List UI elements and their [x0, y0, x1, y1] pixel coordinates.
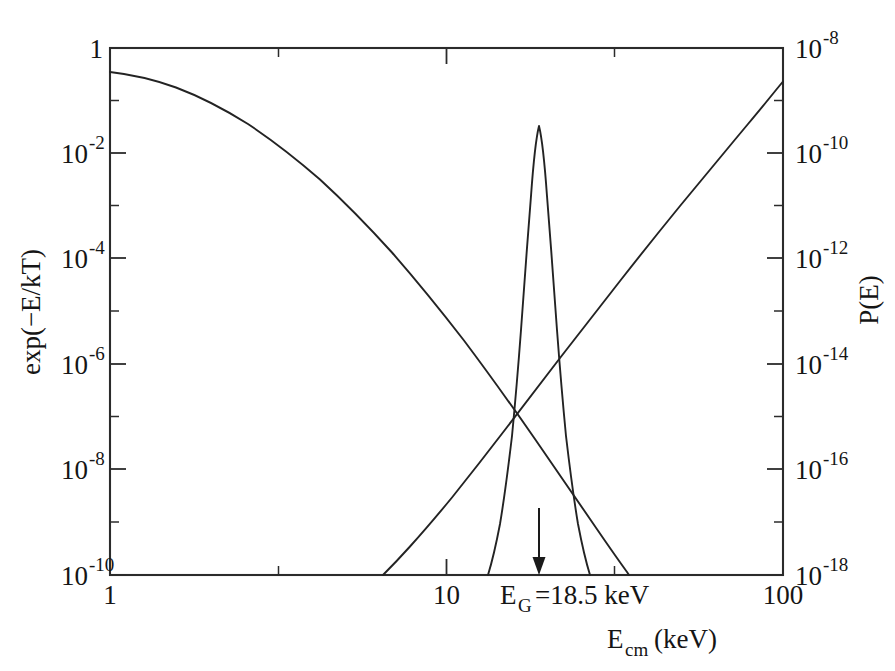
- right-tick-label-2: 10: [795, 244, 822, 274]
- left-axis-tick-labels: 1 10 -2 10 -4 10 -6 10 -8 10 -10: [61, 34, 114, 591]
- gamow-energy-arrow: [533, 508, 546, 575]
- x-axis-tick-labels: 1 10 100: [103, 580, 803, 610]
- plot-frame: [110, 48, 783, 575]
- chart-canvas: 1 10 -2 10 -4 10 -6 10 -8 10 -10 10 -8 1…: [0, 0, 895, 671]
- right-tick-label-0: 10: [795, 34, 822, 64]
- right-tick-exp-4: -16: [823, 448, 848, 469]
- right-tick-exp-5: -18: [823, 554, 848, 575]
- x-axis-title-base: E: [607, 624, 624, 654]
- x-tick-label-2: 100: [763, 580, 804, 610]
- left-tick-label-5: 10: [61, 561, 88, 591]
- left-tick-exp-4: -8: [89, 448, 105, 469]
- curve-tunneling-probability: [383, 82, 783, 576]
- left-tick-label-4: 10: [61, 455, 88, 485]
- gamow-label-sub: G: [518, 595, 532, 616]
- left-tick-label-0: 1: [90, 34, 104, 64]
- left-tick-exp-5: -10: [89, 554, 114, 575]
- right-tick-exp-1: -10: [823, 132, 848, 153]
- left-axis-title: exp(−E/kT): [16, 249, 46, 375]
- x-axis-title: E cm (keV): [607, 624, 717, 660]
- x-axis-ticks: [279, 48, 615, 575]
- right-tick-exp-0: -8: [823, 27, 839, 48]
- right-axis-title-text: P(E): [854, 275, 884, 325]
- right-axis-tick-labels: 10 -8 10 -10 10 -12 10 -14 10 -16 10 -18: [795, 27, 849, 591]
- right-tick-exp-3: -14: [823, 343, 849, 364]
- left-tick-label-2: 10: [61, 244, 88, 274]
- right-tick-label-4: 10: [795, 455, 822, 485]
- right-tick-label-1: 10: [795, 139, 822, 169]
- left-tick-exp-2: -4: [89, 237, 105, 258]
- right-tick-exp-2: -12: [823, 237, 848, 258]
- left-tick-label-3: 10: [61, 350, 88, 380]
- curve-maxwell-boltzmann: [110, 72, 629, 575]
- left-axis-title-text: exp(−E/kT): [16, 249, 46, 375]
- left-axis-ticks: [110, 48, 126, 575]
- left-tick-label-1: 10: [61, 139, 88, 169]
- right-axis-ticks: [767, 48, 783, 575]
- x-tick-label-0: 1: [103, 580, 117, 610]
- curve-gamow-peak: [488, 126, 590, 575]
- x-axis-title-tail: (keV): [654, 624, 717, 654]
- gamow-peak-figure: 1 10 -2 10 -4 10 -6 10 -8 10 -10 10 -8 1…: [0, 0, 895, 671]
- x-tick-label-1: 10: [433, 580, 460, 610]
- gamow-energy-label: E G =18.5 keV: [500, 580, 650, 616]
- gamow-label-tail: =18.5 keV: [535, 580, 650, 610]
- right-tick-label-3: 10: [795, 350, 822, 380]
- left-tick-exp-1: -2: [89, 132, 105, 153]
- gamow-label-base: E: [500, 580, 517, 610]
- x-axis-title-sub: cm: [625, 639, 648, 660]
- left-tick-exp-3: -6: [89, 343, 105, 364]
- right-axis-title: P(E): [854, 275, 884, 325]
